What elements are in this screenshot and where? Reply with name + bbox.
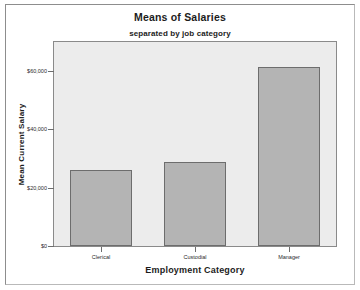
y-tick-label: $20,000 [27,185,47,191]
chart-page: Means of Salaries separated by job categ… [0,0,360,290]
bar-series [54,42,336,246]
bar-rect [70,170,132,246]
x-tick-label: Clerical [61,254,141,260]
x-tick-label: Manager [249,254,329,260]
y-tick [48,188,54,189]
y-tick-label: $60,000 [27,68,47,74]
x-tick-label: Custodial [155,254,235,260]
x-axis-title: Employment Category [53,265,337,275]
y-tick [48,246,54,247]
bar-manager [258,42,320,246]
y-tick-label: $0 [41,243,47,249]
y-axis-title: Mean Current Salary [17,85,26,205]
y-tick-label: $40,000 [27,126,47,132]
x-tick [195,247,196,252]
plot-area [54,42,336,246]
bar-rect [164,162,226,247]
x-tick [101,247,102,252]
chart-subtitle: separated by job category [0,29,360,38]
y-tick [48,129,54,130]
bar-rect [258,67,320,246]
chart-title: Means of Salaries [0,11,360,23]
x-tick [289,247,290,252]
bar-clerical [70,42,132,246]
y-tick [48,71,54,72]
bar-custodial [164,42,226,246]
